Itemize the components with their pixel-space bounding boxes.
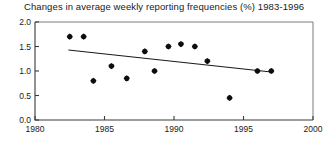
- data-point-marker: [124, 75, 130, 81]
- data-point-marker: [268, 68, 274, 74]
- x-tick-label: 2000: [304, 124, 323, 134]
- trend-line-segment: [68, 50, 271, 72]
- data-point-marker: [67, 34, 73, 40]
- trend-line: [68, 50, 271, 72]
- y-tick-label: 0.5: [19, 91, 31, 101]
- x-tick-label: 1990: [165, 124, 184, 134]
- data-point-marker: [204, 58, 210, 64]
- y-tick-label: 1.5: [19, 42, 31, 52]
- data-point-marker: [192, 43, 198, 49]
- y-tick-label: 1.0: [19, 66, 31, 76]
- data-point-marker: [151, 68, 157, 74]
- data-point-marker: [254, 68, 260, 74]
- data-point-marker: [165, 43, 171, 49]
- data-points: [67, 34, 275, 101]
- x-tick-label: 1980: [26, 124, 45, 134]
- x-tick-label: 1995: [234, 124, 253, 134]
- y-tick-label: 2.0: [19, 17, 31, 27]
- data-point-marker: [227, 95, 233, 101]
- data-point-marker: [178, 41, 184, 47]
- data-point-marker: [108, 63, 114, 69]
- data-point-marker: [81, 34, 87, 40]
- scatter-plot: 0.00.51.01.52.019801985199019952000: [0, 0, 330, 148]
- chart-screenshot: Changes in average weekly reporting freq…: [0, 0, 330, 148]
- x-tick-label: 1985: [95, 124, 114, 134]
- data-point-marker: [90, 78, 96, 84]
- data-point-marker: [142, 48, 148, 54]
- axis-ticks: 0.00.51.01.52.019801985199019952000: [19, 17, 323, 134]
